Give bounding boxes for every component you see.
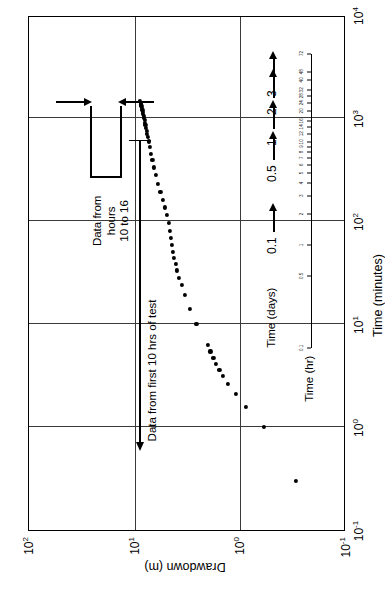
first10-arrow-head <box>136 442 144 451</box>
hours-axis-tick-label: 48 <box>299 69 304 74</box>
days-axis-arrow-head <box>269 51 277 59</box>
days-axis-label: 1 <box>265 139 279 146</box>
hours-axis-tick-label: 24 <box>299 100 304 105</box>
hours-axis-line <box>311 54 312 348</box>
hours-axis-tick-label: 40 <box>299 77 304 82</box>
hours-bracket-bottom <box>120 106 122 178</box>
y-tick-label: 10-1 <box>338 537 353 567</box>
days-axis-arrow-head <box>269 203 277 211</box>
data-point <box>206 343 210 347</box>
hours-axis-tick-label: 14 <box>299 124 304 129</box>
x-tick-label: 104 <box>351 7 366 25</box>
hours-axis-tick <box>307 146 311 147</box>
days-axis-label: 0.5 <box>265 165 279 182</box>
data-point <box>152 166 156 170</box>
data-point <box>150 158 154 162</box>
data-point <box>169 236 173 240</box>
hours-axis-tick <box>307 151 311 152</box>
gridline-vertical <box>29 117 344 118</box>
data-point <box>154 173 158 177</box>
hours-arrow-lower-shaft <box>124 101 154 103</box>
data-point <box>165 213 169 217</box>
first10-arrow-end-tick <box>129 140 151 142</box>
hours-axis-tick <box>307 275 311 276</box>
data-point <box>208 349 212 353</box>
data-point <box>156 182 160 186</box>
x-tick-label: 102 <box>351 213 366 231</box>
data-point <box>188 307 192 311</box>
hours-axis-tick <box>307 126 311 127</box>
days-axis-label: 2 <box>265 108 279 115</box>
days-axis-arrow-head <box>269 100 277 108</box>
data-point <box>214 362 218 366</box>
data-point <box>179 283 183 287</box>
hours-axis-tick-label: 2 <box>299 213 304 216</box>
hours-axis-tick-label: 5 <box>299 172 304 175</box>
days-axis-title: Time (days) <box>265 288 277 348</box>
data-point <box>177 276 181 280</box>
hours-axis-tick-label: 0.5 <box>299 273 304 279</box>
hours-axis-tick <box>307 102 311 103</box>
hours-axis-tick <box>307 244 311 245</box>
gridline-vertical <box>29 323 344 324</box>
gridline-horizontal <box>135 17 136 530</box>
hours-axis-tick-label: 6 <box>299 163 304 166</box>
hours-axis-tick <box>307 347 311 348</box>
hours-axis-title: Time (hr) <box>303 356 315 402</box>
hours-arrow-upper-shaft <box>56 101 86 103</box>
hours-axis-tick-label: 32 <box>299 87 304 92</box>
hours-axis-tick <box>307 164 311 165</box>
hours-axis-tick-label: 20 <box>299 108 304 113</box>
gridline-vertical <box>29 220 344 221</box>
hours-axis-tick <box>307 95 311 96</box>
hours-axis-tick <box>307 110 311 111</box>
x-tick-label: 101 <box>351 316 366 334</box>
gridline-vertical <box>29 426 344 427</box>
hours-axis-tick <box>307 172 311 173</box>
data-point <box>183 293 187 297</box>
hours-axis-tick <box>307 89 311 90</box>
data-point <box>211 356 215 360</box>
first10-arrow-shaft <box>139 140 141 449</box>
hours-axis-tick <box>307 79 311 80</box>
hours-axis-tick <box>307 133 311 134</box>
hours-axis-tick <box>307 195 311 196</box>
data-point <box>149 152 153 156</box>
data-point <box>173 262 177 266</box>
data-point <box>234 392 238 396</box>
data-point <box>293 479 297 483</box>
hours-axis-tick-label: 1 <box>299 244 304 247</box>
data-point <box>168 229 172 233</box>
hours-axis-tick-label: 9 <box>299 145 304 148</box>
y-tick-label: 102 <box>21 537 36 567</box>
hours-axis-tick-label: 3 <box>299 194 304 197</box>
hours-axis-tick <box>307 120 311 121</box>
hours-axis-tick-label: 72 <box>299 51 304 56</box>
hours-axis-tick <box>307 141 311 142</box>
days-axis-arrow-shaft <box>273 58 275 80</box>
data-point <box>175 269 179 273</box>
hours-axis-tick <box>307 53 311 54</box>
x-axis-title: Time (minutes) <box>371 0 385 591</box>
hours-axis-tick <box>307 157 311 158</box>
hours-axis-tick-label: 12 <box>299 131 304 136</box>
hours-bracket-top <box>90 106 92 178</box>
days-axis-label: 3 <box>265 90 279 97</box>
annotation-data-from-first-10-hrs: Data from first 10 hrs of test <box>146 300 160 442</box>
hours-axis-tick-label: 7 <box>299 157 304 160</box>
plot-area <box>28 16 345 531</box>
data-point <box>158 190 162 194</box>
hours-axis-tick-label: 8 <box>299 151 304 154</box>
data-point <box>170 243 174 247</box>
y-axis-title: Drawdown (m) <box>125 560 245 574</box>
annotation-data-from-hours-10-to-16: Data from hours 10 to 16 <box>91 182 132 260</box>
hours-bracket-spine <box>90 176 121 178</box>
days-axis-arrow-head <box>269 131 277 139</box>
data-point <box>226 382 230 386</box>
data-point <box>262 425 266 429</box>
gridline-horizontal <box>240 17 241 530</box>
data-point <box>148 145 152 149</box>
hours-axis-tick <box>307 182 311 183</box>
data-point <box>217 368 221 372</box>
